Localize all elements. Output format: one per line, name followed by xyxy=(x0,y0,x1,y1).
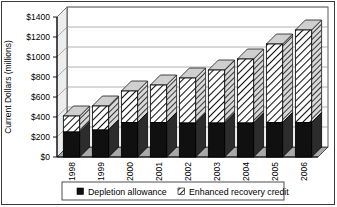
bar-segment-enhanced-recovery-credit xyxy=(63,116,79,132)
x-tick-label: 2004 xyxy=(241,162,251,181)
y-tick-label: $1000 xyxy=(26,52,50,62)
x-tick-label: 2000 xyxy=(125,162,135,181)
y-tick-label: $800 xyxy=(31,72,50,82)
bar-segment-enhanced-recovery-credit-side xyxy=(283,34,293,123)
bar-segment-depletion-allowance xyxy=(295,123,311,158)
bar-segment-depletion-allowance xyxy=(92,130,108,157)
bar-segment-enhanced-recovery-credit-side xyxy=(225,60,235,123)
y-tick-label: $0 xyxy=(41,152,51,162)
bar-group xyxy=(150,75,176,157)
bar-segment-enhanced-recovery-credit xyxy=(121,91,137,123)
bar-segment-depletion-allowance xyxy=(150,123,166,158)
chart-legend: Depletion allowance Enhanced recovery cr… xyxy=(62,182,289,200)
bar-group xyxy=(208,60,234,157)
bar-segment-enhanced-recovery-credit xyxy=(237,59,253,123)
y-axis-title: Current Dollars (millions) xyxy=(3,40,13,134)
y-tick-label: $600 xyxy=(31,92,50,102)
x-tick-label: 2003 xyxy=(212,162,222,181)
x-axis-tick-labels: 199819992000200120022003200420052006 xyxy=(67,162,309,181)
legend-label-depletion-allowance: Depletion allowance xyxy=(88,187,167,197)
y-tick-label: $400 xyxy=(31,112,50,122)
bar-segment-enhanced-recovery-credit xyxy=(208,70,224,123)
bar-segment-depletion-allowance xyxy=(121,123,137,158)
bar-group xyxy=(63,106,89,157)
bar-group xyxy=(179,68,205,157)
bar-segment-depletion-allowance xyxy=(179,123,195,157)
bar-group xyxy=(266,34,292,157)
x-tick-label: 1999 xyxy=(96,162,106,181)
x-tick-label: 2006 xyxy=(299,162,309,181)
bar-segment-depletion-allowance xyxy=(63,132,79,157)
legend-label-enhanced-recovery-credit: Enhanced recovery credit xyxy=(189,187,289,197)
bar-segment-enhanced-recovery-credit xyxy=(92,106,108,130)
legend-swatch-depletion-allowance xyxy=(77,188,84,195)
bar-segment-enhanced-recovery-credit xyxy=(179,78,195,123)
chart-container: $1400 $1200 $1000 $800 $600 $400 $200 $0… xyxy=(0,0,337,207)
x-tick-label: 1998 xyxy=(67,162,77,181)
x-tick-label: 2001 xyxy=(154,162,164,181)
bar-group xyxy=(92,96,118,157)
bar-segment-enhanced-recovery-credit xyxy=(266,44,282,123)
bar-segment-depletion-allowance xyxy=(208,123,224,157)
y-tick-label: $200 xyxy=(31,132,50,142)
legend-swatch-enhanced-recovery-credit xyxy=(178,188,185,195)
bar-segment-enhanced-recovery-credit-side xyxy=(254,49,264,123)
bar-segment-enhanced-recovery-credit-side xyxy=(312,20,322,123)
x-tick-label: 2005 xyxy=(270,162,280,181)
y-tick-label: $1400 xyxy=(26,12,50,22)
bar-group xyxy=(121,81,147,157)
bar-group xyxy=(295,20,321,157)
x-tick-label: 2002 xyxy=(183,162,193,181)
stacked-bar-chart: $1400 $1200 $1000 $800 $600 $400 $200 $0… xyxy=(0,0,337,207)
bar-segment-depletion-allowance xyxy=(266,123,282,158)
bar-segment-enhanced-recovery-credit xyxy=(295,30,311,123)
bar-group xyxy=(237,49,263,157)
y-tick-label: $1200 xyxy=(26,32,50,42)
bar-segment-enhanced-recovery-credit xyxy=(150,85,166,123)
bar-segment-depletion-allowance xyxy=(237,123,253,157)
